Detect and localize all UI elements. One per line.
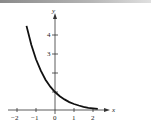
data-curve (27, 26, 98, 109)
x-tick-label: 0 (53, 114, 57, 122)
x-tick-label: −2 (11, 114, 19, 122)
exponential-decay-chart: −2 −1 0 1 2 4 3 x y (0, 0, 151, 129)
x-axis-arrow-icon (104, 108, 110, 112)
y-tick-label: 3 (47, 50, 51, 58)
x-axis-label: x (111, 106, 116, 114)
x-tick-label: 2 (91, 114, 95, 122)
y-tick-label: 4 (47, 31, 51, 39)
x-tick-label: −1 (31, 114, 39, 122)
x-tick-label: 1 (72, 114, 76, 122)
